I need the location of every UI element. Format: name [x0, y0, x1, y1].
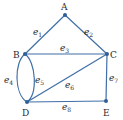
vertex-label-e: E [103, 108, 110, 118]
edge-label-e5: e5 [35, 75, 44, 86]
vertex-d [25, 100, 29, 104]
vertex-e [104, 99, 108, 103]
edge-label-e7: e7 [109, 73, 118, 84]
vertex-b [23, 52, 27, 56]
edge-label-e8: e8 [62, 102, 71, 113]
vertex-c [105, 52, 109, 56]
edge-label-e2: e2 [84, 27, 93, 38]
vertex-label-c: C [110, 50, 117, 60]
vertex-label-b: B [13, 50, 20, 60]
edge-label-e1: e1 [33, 27, 42, 38]
edge-e5 [25, 54, 34, 102]
vertex-a [63, 13, 67, 17]
edge-label-e6: e6 [65, 80, 74, 91]
edge-e7 [106, 54, 107, 101]
vertex-label-a: A [60, 2, 68, 12]
vertex-label-d: D [22, 108, 29, 118]
graph-diagram: A B C D E e1 e2 e3 e4 e5 e6 e7 e8 [0, 0, 123, 120]
edge-label-e4: e4 [4, 75, 13, 86]
edge-e4 [17, 54, 27, 102]
edge-e1 [25, 15, 65, 54]
edge-label-e3: e3 [60, 43, 69, 54]
